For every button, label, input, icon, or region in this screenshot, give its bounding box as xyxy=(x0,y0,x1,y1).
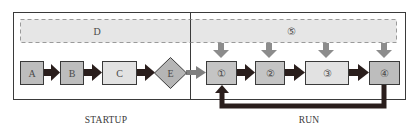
node-a: A xyxy=(21,62,44,85)
shared-block-5-label: ⑤ xyxy=(287,26,296,37)
node-b-label: B xyxy=(69,68,76,79)
node-3: ③ xyxy=(306,62,349,85)
node-2: ② xyxy=(256,62,285,85)
node-4-label: ④ xyxy=(380,68,389,79)
node-a-label: A xyxy=(28,68,36,79)
shared-block-d-fill xyxy=(21,20,191,43)
node-1: ① xyxy=(207,62,237,85)
phase-label-startup: STARTUP xyxy=(85,115,127,125)
phase-label-run: RUN xyxy=(299,115,320,125)
node-e-label: E xyxy=(167,68,173,79)
flow-diagram: D ⑤ xyxy=(0,0,419,135)
node-4: ④ xyxy=(370,62,400,85)
node-b: B xyxy=(61,62,84,85)
node-c-label: C xyxy=(116,68,123,79)
node-c: C xyxy=(103,62,137,85)
node-2-label: ② xyxy=(266,68,275,79)
node-3-label: ③ xyxy=(323,68,332,79)
shared-block-d-label: D xyxy=(93,26,100,37)
node-1-label: ① xyxy=(217,68,226,79)
